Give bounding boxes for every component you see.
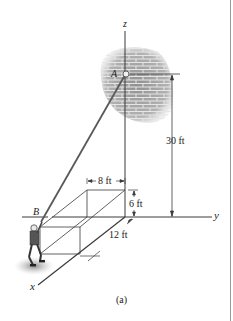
dimension-6ft-label: 6 ft	[129, 199, 143, 209]
point-a-label: A	[111, 69, 117, 79]
force-vector-diagram: z y x A B 30 ft 8 ft 6 ft 12 ft (a)	[0, 0, 233, 321]
page-edge-divider	[230, 0, 231, 321]
point-b-label: B	[33, 207, 39, 217]
dimension-30ft-label: 30 ft	[166, 136, 185, 146]
x-axis-label: x	[30, 281, 35, 292]
dimension-8ft-label: 8 ft	[98, 176, 112, 186]
z-axis-label: z	[123, 19, 127, 29]
dimension-box	[40, 190, 125, 254]
dimension-12ft-label: 12 ft	[109, 230, 128, 240]
diagram-canvas	[0, 0, 233, 321]
brick-wall	[101, 47, 174, 123]
dimension-12ft	[80, 219, 133, 261]
y-axis-label: y	[214, 210, 219, 221]
figure-caption: (a)	[116, 295, 127, 305]
anchor-a-icon	[123, 71, 129, 77]
